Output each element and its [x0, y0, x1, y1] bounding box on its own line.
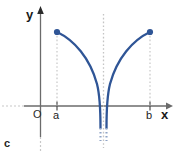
plot-canvas — [0, 0, 176, 157]
tick-label-b: b — [146, 110, 152, 121]
figure-caption-letter: c — [4, 138, 10, 149]
y-axis-label: y — [26, 8, 33, 21]
x-axis-label: x — [161, 108, 168, 121]
y-axis-arrowhead — [37, 6, 44, 14]
endpoint-dot-b — [147, 29, 153, 35]
origin-label: O — [33, 109, 42, 120]
endpoint-dot-a — [54, 29, 60, 35]
tick-label-a: a — [53, 110, 59, 121]
curve-left-branch — [57, 32, 101, 128]
function-graph-figure: y x O a b c — [0, 0, 176, 157]
curve-right-branch — [107, 32, 151, 128]
